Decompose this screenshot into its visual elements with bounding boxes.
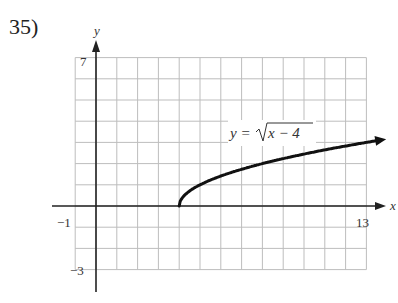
axes [52, 40, 386, 292]
y-axis-label: y [92, 23, 100, 38]
graph: y x 7 −3 −1 13 y = x − 4 [0, 0, 398, 303]
tick-label-x-max: 13 [356, 215, 369, 230]
x-axis-arrow-icon [375, 202, 386, 210]
grid [75, 58, 366, 270]
tick-label-y-max: 7 [80, 54, 87, 69]
tick-label-y-min: −3 [70, 263, 84, 278]
y-axis-arrow-icon [92, 40, 100, 52]
equation-lhs: y = [228, 125, 251, 141]
function-curve [179, 141, 378, 207]
x-axis-label: x [389, 198, 396, 213]
tick-label-x-min: −1 [57, 215, 71, 230]
equation-radicand: x − 4 [267, 125, 300, 141]
curve-arrowhead-icon [374, 136, 386, 146]
